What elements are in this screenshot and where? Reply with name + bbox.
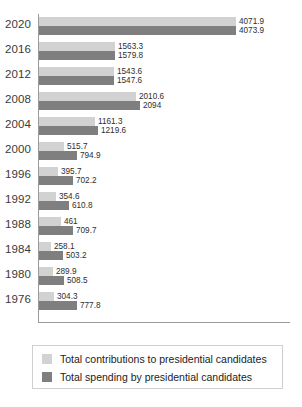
bar-value-label-spending: 4073.9: [236, 26, 264, 35]
y-axis-tick-label: 1988: [0, 218, 31, 231]
bar-row: 2000515.7794.9: [0, 140, 302, 165]
bar-value-label-spending: 1219.6: [98, 126, 126, 135]
bar-value-label-contributions: 515.7: [64, 142, 88, 151]
y-axis-tick-label: 2004: [0, 118, 31, 131]
bar-row: 20121543.61547.6: [0, 65, 302, 90]
bar-value-label-contributions: 1543.6: [114, 67, 142, 76]
bar-value-label-contributions: 258.1: [51, 242, 75, 251]
bar-group: 395.7702.2: [39, 167, 290, 188]
bar-value-label-contributions: 1563.3: [115, 42, 143, 51]
bar-value-label-contributions: 354.6: [56, 192, 80, 201]
bar-row: 1996395.7702.2: [0, 165, 302, 190]
bar-value-label-spending: 794.9: [77, 151, 101, 160]
legend-swatch-icon-contributions: [42, 354, 52, 364]
bar-row: 1984258.1503.2: [0, 240, 302, 265]
bar-spending: [39, 276, 64, 285]
bar-value-label-contributions: 304.3: [54, 292, 78, 301]
legend-swatch-icon-spending: [42, 372, 52, 382]
legend-label-spending: Total spending by presidential candidate…: [60, 371, 252, 383]
bar-group: 1543.61547.6: [39, 67, 290, 88]
bar-contributions: [39, 17, 236, 26]
y-axis-tick-label: 2008: [0, 93, 31, 106]
bar-contributions: [39, 117, 95, 126]
bar-spending: [39, 76, 114, 85]
bar-row: 20204071.94073.9: [0, 15, 302, 40]
bar-spending: [39, 51, 115, 60]
chart-legend: Total contributions to presidential cand…: [32, 345, 283, 389]
bar-row: 1980289.9508.5: [0, 265, 302, 290]
bar-contributions: [39, 267, 53, 276]
bar-group: 461709.7: [39, 217, 290, 238]
bar-value-label-spending: 1547.6: [114, 76, 142, 85]
bar-value-label-contributions: 395.7: [58, 167, 82, 176]
legend-item-spending: Total spending by presidential candidate…: [42, 368, 252, 386]
bar-spending: [39, 301, 77, 310]
bar-row: 1988461709.7: [0, 215, 302, 240]
y-axis-tick-label: 2016: [0, 43, 31, 56]
bar-value-label-spending: 1579.8: [115, 51, 143, 60]
bar-row: 20082010.62094: [0, 90, 302, 115]
bar-contributions: [39, 292, 54, 301]
x-axis-line: [38, 322, 290, 323]
bar-group: 4071.94073.9: [39, 17, 290, 38]
bar-group: 2010.62094: [39, 92, 290, 113]
bar-value-label-spending: 508.5: [64, 276, 88, 285]
bar-row: 1976304.3777.8: [0, 290, 302, 315]
bar-group: 1563.31579.8: [39, 42, 290, 63]
bar-contributions: [39, 142, 64, 151]
plot-area: 20204071.94073.920161563.31579.820121543…: [0, 0, 302, 330]
bar-group: 304.3777.8: [39, 292, 290, 313]
bar-group: 1161.31219.6: [39, 117, 290, 138]
bar-spending: [39, 101, 140, 110]
bar-value-label-contributions: 2010.6: [136, 92, 164, 101]
y-axis-tick-label: 2012: [0, 68, 31, 81]
bar-spending: [39, 151, 77, 160]
bar-spending: [39, 226, 73, 235]
y-axis-tick-label: 1980: [0, 268, 31, 281]
bar-spending: [39, 251, 63, 260]
y-axis-tick-label: 1996: [0, 168, 31, 181]
y-axis-tick-label: 1984: [0, 243, 31, 256]
bar-value-label-contributions: 289.9: [53, 267, 77, 276]
bar-contributions: [39, 242, 51, 251]
bar-row: 20161563.31579.8: [0, 40, 302, 65]
bar-contributions: [39, 192, 56, 201]
legend-item-contributions: Total contributions to presidential cand…: [42, 350, 267, 368]
y-axis-tick-label: 2020: [0, 18, 31, 31]
bar-chart: 20204071.94073.920161563.31579.820121543…: [0, 0, 302, 407]
bar-row: 20041161.31219.6: [0, 115, 302, 140]
bar-value-label-contributions: 4071.9: [236, 17, 264, 26]
bar-value-label-spending: 702.2: [73, 176, 97, 185]
y-axis-tick-label: 1976: [0, 293, 31, 306]
legend-label-contributions: Total contributions to presidential cand…: [60, 353, 267, 365]
bar-value-label-spending: 777.8: [77, 301, 101, 310]
bar-contributions: [39, 92, 136, 101]
bar-value-label-spending: 503.2: [63, 251, 87, 260]
bar-value-label-spending: 709.7: [73, 226, 97, 235]
bar-contributions: [39, 217, 61, 226]
bar-group: 515.7794.9: [39, 142, 290, 163]
bar-spending: [39, 201, 69, 210]
bar-group: 289.9508.5: [39, 267, 290, 288]
y-axis-tick-label: 2000: [0, 143, 31, 156]
bar-row: 1992354.6610.8: [0, 190, 302, 215]
bar-value-label-spending: 2094: [140, 101, 161, 110]
bar-group: 258.1503.2: [39, 242, 290, 263]
bar-group: 354.6610.8: [39, 192, 290, 213]
bar-spending: [39, 26, 236, 35]
bar-value-label-contributions: 461: [61, 217, 78, 226]
bar-contributions: [39, 167, 58, 176]
bar-contributions: [39, 67, 114, 76]
bar-value-label-spending: 610.8: [69, 201, 93, 210]
y-axis-tick-label: 1992: [0, 193, 31, 206]
bar-contributions: [39, 42, 115, 51]
bar-value-label-contributions: 1161.3: [95, 117, 122, 126]
bar-spending: [39, 176, 73, 185]
bar-spending: [39, 126, 98, 135]
